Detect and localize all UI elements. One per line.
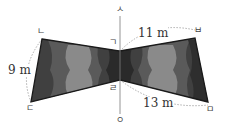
bowtie-figure	[0, 0, 225, 134]
vertex-d: ㄷ	[26, 104, 34, 113]
vertex-g: ㄱ	[109, 38, 117, 47]
label-o: ㅇ	[116, 116, 124, 125]
vertex-r: ㄹ	[109, 84, 117, 93]
label-s: ㅅ	[116, 5, 124, 14]
measure-gb: 11 m	[138, 27, 168, 39]
vertex-m: ㅁ	[206, 105, 214, 114]
vertex-b: ㅂ	[194, 26, 202, 35]
measure-rm: 13 m	[143, 97, 173, 109]
vertex-n: ㄴ	[37, 27, 45, 36]
measure-nd: 9 m	[8, 64, 31, 76]
